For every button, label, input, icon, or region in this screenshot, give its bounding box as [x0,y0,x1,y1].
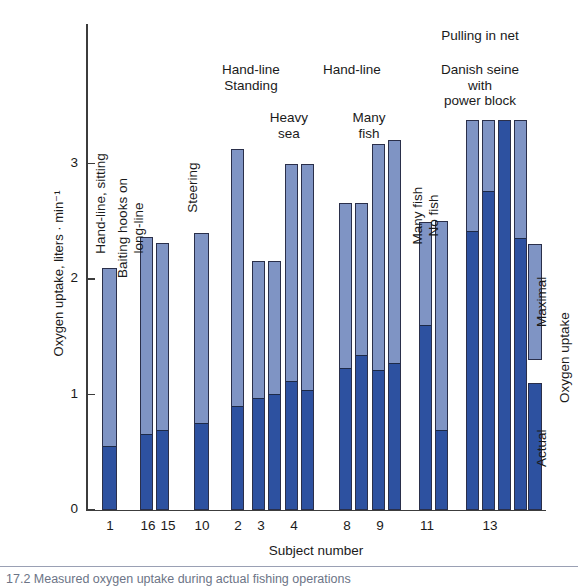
annotation-pulling-in-net: Pulling in net [410,28,550,44]
legend-label-actual: Actual [534,429,549,467]
y-axis-line [86,24,88,511]
legend-label-maximal: Maximal [534,277,549,327]
y-tick-1 [88,394,95,396]
bar-actual-segment [140,434,153,510]
bar-subject-15 [156,243,169,510]
annotation-many-fish: Many fish [333,110,405,141]
bar-subject-13d [514,120,527,510]
legend-group-title: Oxygen uptake [557,312,572,403]
bar-actual-segment [339,368,352,510]
figure-oxygen-uptake: 0 1 2 3 Oxygen uptake, liters · min⁻¹ Su… [0,0,578,588]
x-axis-title: Subject number [206,543,426,558]
bar-subject-2 [231,149,244,510]
annotation-hand-line: Hand-line [297,62,407,78]
annotation-heavy-sea: Heavy sea [253,110,325,141]
bar-subject-8b [355,203,368,510]
x-tick-label-13: 13 [470,518,510,533]
bar-actual-segment [482,191,495,510]
bar-actual-segment [285,381,298,510]
annotation-steering: Steering [185,128,201,248]
x-tick-label-4: 4 [274,518,314,533]
bar-subject-8a [339,203,352,510]
figure-caption: 17.2 Measured oxygen uptake during actua… [6,572,572,586]
annotation-baiting-hooks: Baiting hooks on long-line [115,148,146,308]
bar-subject-4b [301,164,314,510]
bar-actual-segment [156,430,169,510]
bar-actual-segment [514,238,527,510]
bar-subject-13a [466,120,479,510]
annotation-no-fish: No fish [426,156,442,276]
bar-actual-segment [252,398,265,510]
bar-subject-13b [482,120,495,510]
bar-subject-9a [372,144,385,510]
x-tick-label-1: 1 [90,518,130,533]
annotation-hand-line-sitting: Hand-line, sitting [93,124,109,284]
bar-actual-segment [435,430,448,510]
bar-subject-3a [252,261,265,510]
bar-actual-segment [231,406,244,510]
caption-divider [0,566,578,567]
bar-subject-3b [268,261,281,510]
annotation-danish-seine: Danish seine with power block [410,62,550,109]
bar-actual-segment [268,394,281,510]
x-tick-label-11: 11 [407,518,447,533]
bar-actual-segment [498,120,511,510]
x-tick-label-10: 10 [182,518,222,533]
bar-subject-10 [194,233,209,510]
bar-actual-segment [102,446,117,510]
y-axis-title: Oxygen uptake, liters · min⁻¹ [51,124,66,424]
x-tick-label-9: 9 [360,518,400,533]
bar-actual-segment [301,390,314,510]
bar-subject-4a [285,164,298,510]
annotation-many-fish-vertical: Many fish [410,156,426,276]
bar-actual-segment [419,325,432,510]
bar-actual-segment [388,363,401,510]
y-tick-0 [88,509,95,511]
y-tick-label-0: 0 [38,502,78,516]
annotation-hand-line-standing: Hand-line Standing [196,62,306,93]
bar-actual-segment [372,370,385,510]
bar-actual-segment [355,355,368,510]
bar-actual-segment [194,423,209,510]
bar-subject-13c [498,120,511,510]
bar-subject-9b [388,140,401,510]
bar-actual-segment [466,231,479,510]
